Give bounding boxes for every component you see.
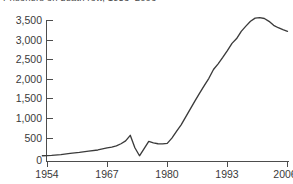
y-tick-label: 0 (36, 154, 42, 166)
y-tick-label: 1,000 (16, 112, 42, 124)
x-axis-tick-labels: 1954 1967 1980 1993 2006 (35, 168, 293, 180)
x-tick-label: 1967 (95, 168, 119, 180)
y-tick-label: 3,500 (16, 14, 42, 26)
chart-container: Prisoners on death row, 1953–2006 3,500 … (0, 0, 293, 184)
y-tick-label: 3,000 (16, 34, 42, 46)
y-tick-label: 2,500 (16, 53, 42, 65)
x-axis-ticks (48, 162, 288, 168)
y-tick-label: 1,500 (16, 92, 42, 104)
line-chart-plot: 3,500 3,000 2,500 2,000 1,500 1,000 500 … (0, 0, 293, 184)
y-axis-ticks (47, 21, 53, 139)
data-series-line (42, 18, 287, 156)
y-axis-tick-labels: 3,500 3,000 2,500 2,000 1,500 1,000 500 … (16, 14, 42, 166)
x-tick-label: 1993 (215, 168, 239, 180)
y-tick-label: 2,000 (16, 73, 42, 85)
x-tick-label: 1980 (155, 168, 179, 180)
x-tick-label: 2006 (273, 168, 293, 180)
y-tick-label: 500 (24, 132, 42, 144)
x-tick-label: 1954 (35, 168, 59, 180)
